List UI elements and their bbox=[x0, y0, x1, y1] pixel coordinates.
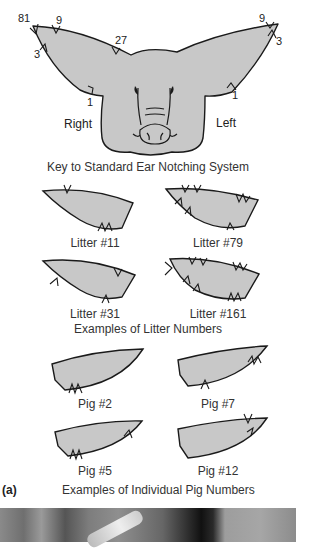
pig-label: Pig #5 bbox=[40, 464, 150, 478]
notch-value-9-right: 9 bbox=[56, 14, 62, 26]
notch-value-27: 27 bbox=[115, 34, 127, 46]
notch-value-3-left: 3 bbox=[276, 35, 282, 47]
side-label-right: Right bbox=[64, 117, 92, 131]
pig-caption: Examples of Individual Pig Numbers bbox=[40, 483, 318, 497]
litter-label: Litter #11 bbox=[40, 236, 150, 250]
notch-value-1-right: 1 bbox=[87, 96, 93, 108]
litter-label: Litter #31 bbox=[40, 307, 150, 321]
pig-label: Pig #12 bbox=[163, 464, 273, 478]
pig-label: Pig #7 bbox=[163, 397, 273, 411]
notch-value-1-left: 1 bbox=[232, 89, 238, 101]
litter-label: Litter #79 bbox=[163, 236, 273, 250]
side-label-left: Left bbox=[216, 116, 236, 130]
photo-highlight bbox=[85, 509, 145, 549]
notch-value-81: 81 bbox=[18, 12, 30, 24]
notch-value-3-right: 3 bbox=[34, 48, 40, 60]
photo-strip bbox=[0, 508, 296, 542]
notch-value-9-left: 9 bbox=[259, 12, 265, 24]
litter-label: Litter #161 bbox=[163, 307, 273, 321]
pig-label: Pig #2 bbox=[40, 397, 150, 411]
panel-label: (a) bbox=[2, 483, 17, 497]
litter-caption: Examples of Litter Numbers bbox=[0, 322, 296, 336]
key-caption: Key to Standard Ear Notching System bbox=[0, 160, 296, 174]
